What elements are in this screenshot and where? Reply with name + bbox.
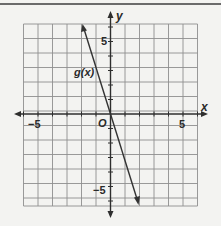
- curve-label: g(x): [73, 66, 95, 78]
- y-axis-up-arrow-icon: [108, 11, 114, 18]
- y-tick-label-neg5: −5: [93, 184, 106, 196]
- x-axis-label: x: [200, 100, 209, 114]
- x-tick-label-pos5: 5: [179, 118, 185, 130]
- x-tick-label-neg5: −5: [28, 118, 41, 130]
- y-tick-label-pos5: 5: [101, 35, 107, 47]
- coordinate-plane: y x O −5 5 5 −5 g(x): [0, 0, 221, 226]
- origin-label: O: [98, 117, 107, 129]
- x-axis-left-arrow-icon: [14, 111, 21, 117]
- y-axis-label: y: [115, 9, 124, 23]
- y-axis-down-arrow-icon: [108, 211, 114, 218]
